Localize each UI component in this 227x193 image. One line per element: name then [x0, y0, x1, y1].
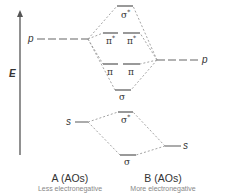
right-atom-caption: B (AOs) More electronegative	[130, 172, 195, 193]
left-p-orbital: p	[27, 33, 88, 44]
mo-p-pi-2: π	[123, 64, 140, 77]
mo-label: π*	[106, 34, 115, 46]
mo-label: π	[128, 67, 134, 77]
mo-p-pi-star-2: π*	[123, 33, 140, 46]
left-s-orbital: s	[66, 116, 88, 127]
mo-label: σ*	[121, 113, 130, 125]
left-atom-subtitle: Less electronegative	[38, 185, 102, 193]
right-atom-subtitle: More electronegative	[130, 185, 195, 193]
mo-p-pi-1: π	[103, 64, 118, 77]
mo-label: σ*	[121, 8, 130, 20]
mo-s-sigma: σ	[120, 155, 136, 167]
right-p-orbital: p	[157, 54, 208, 65]
mo-label: π	[107, 67, 113, 77]
right-p-label: p	[201, 54, 208, 65]
mo-p-sigma-star: σ*	[117, 6, 133, 20]
mo-diagram: E p p s s σ*	[0, 0, 227, 193]
mo-label: σ	[119, 92, 125, 102]
left-atom-title: A (AOs)	[52, 172, 89, 184]
mo-label: σ	[124, 157, 130, 167]
mo-p-pi-star-1: π*	[103, 33, 118, 46]
arrow-up-icon	[17, 10, 23, 17]
left-atom-caption: A (AOs) Less electronegative	[38, 172, 102, 193]
mo-p-sigma: σ	[115, 90, 131, 102]
mo-label: π*	[127, 34, 136, 46]
right-atom-title: B (AOs)	[144, 172, 181, 184]
left-s-label: s	[66, 116, 71, 127]
right-s-label: s	[183, 140, 188, 151]
left-p-label: p	[27, 33, 34, 44]
right-s-orbital: s	[165, 140, 188, 151]
energy-axis-label: E	[9, 68, 16, 79]
mo-s-sigma-star: σ*	[118, 112, 133, 125]
energy-axis: E	[9, 10, 23, 155]
